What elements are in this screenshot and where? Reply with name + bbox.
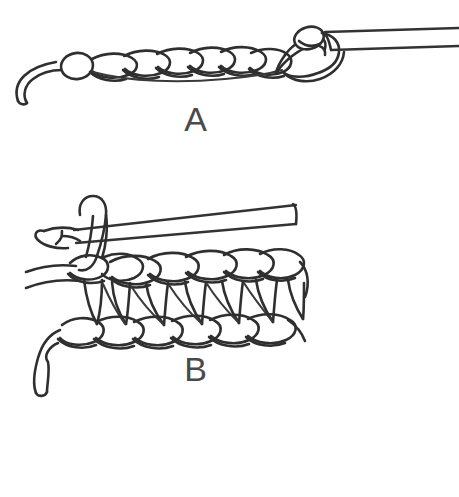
crochet-illustration: A (0, 0, 459, 497)
figure-a-label: A (184, 100, 208, 138)
figure-b-label: B (184, 350, 208, 388)
illustration-root: A (0, 0, 459, 497)
